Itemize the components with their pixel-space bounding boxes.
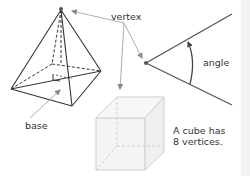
angle-arc-arrow [188, 42, 193, 84]
base-label: base [25, 120, 48, 131]
pyramid-shape [11, 7, 101, 106]
angle-vertex-dot [144, 61, 148, 65]
cube-vertices-note: A cube has 8 vertices. [173, 125, 239, 147]
base-pointer-arrow [30, 90, 60, 118]
cube-note-line2: 8 vertices. [173, 136, 239, 147]
pyramid-apex-dot [59, 7, 63, 11]
cube-shape [96, 97, 164, 170]
angle-label: angle [203, 57, 229, 68]
vertex-label: vertex [111, 11, 141, 22]
geometry-diagram [0, 0, 250, 176]
cube-note-line1: A cube has [173, 125, 239, 136]
